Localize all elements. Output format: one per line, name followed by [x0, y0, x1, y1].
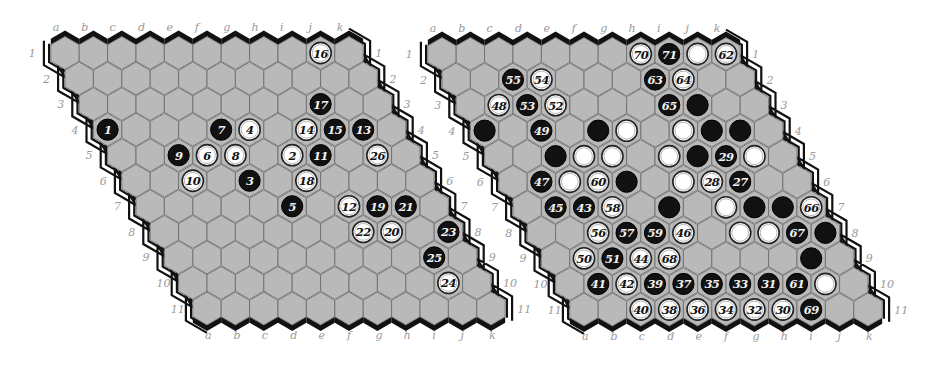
move-number: 30: [775, 303, 790, 317]
row-label-left: 8: [505, 227, 512, 240]
stone-black: 45: [545, 197, 566, 218]
move-number: 53: [520, 99, 535, 113]
stone-white: [758, 222, 779, 243]
stone-black: 35: [701, 273, 722, 294]
move-number: 58: [605, 201, 620, 215]
col-label-bottom: h: [781, 330, 788, 343]
stone-black: [616, 171, 637, 192]
col-label-bottom: k: [866, 330, 873, 343]
stone-black: [772, 197, 793, 218]
stone-white: [573, 146, 594, 167]
row-label-right: 5: [809, 150, 816, 163]
move-number: 70: [633, 48, 648, 62]
stone-black: 37: [673, 273, 694, 294]
stone-black: [659, 197, 680, 218]
move-number: 71: [662, 48, 677, 62]
stone-black: 43: [573, 197, 594, 218]
stone-white: 46: [673, 222, 694, 243]
stone-white: 66: [801, 197, 822, 218]
col-label-bottom: j: [835, 330, 842, 343]
row-label-right: 8: [852, 227, 859, 240]
row-label-right: 7: [837, 201, 844, 214]
row-label-right: 9: [866, 252, 873, 265]
move-number: 40: [633, 303, 648, 317]
move-number: 33: [733, 277, 748, 291]
move-number: 56: [591, 226, 606, 240]
stone-black: [730, 120, 751, 141]
stone-white: 30: [772, 299, 793, 320]
stone-black: 71: [659, 43, 680, 64]
stone-white: 32: [744, 299, 765, 320]
move-number: 64: [676, 73, 691, 87]
move-number: 37: [676, 277, 691, 291]
col-label-top: d: [515, 22, 522, 35]
row-label-right: 11: [894, 304, 908, 317]
row-label-left: 4: [447, 125, 455, 138]
hex-diagrams: aabbccddeeffgghhiijjkk112233445566778899…: [0, 0, 943, 365]
stone-black: 63: [644, 69, 665, 90]
stone-black: 69: [801, 299, 822, 320]
row-label-left: 10: [534, 278, 548, 291]
row-label-left: 5: [463, 150, 470, 163]
row-label-left: 9: [519, 252, 526, 265]
move-number: 35: [704, 277, 719, 291]
stone-black: 61: [786, 273, 807, 294]
stone-black: [701, 120, 722, 141]
stone-black: 59: [644, 222, 665, 243]
stone-black: [687, 146, 708, 167]
col-label-top: a: [430, 22, 437, 35]
col-label-top: h: [629, 22, 636, 35]
move-number: 57: [619, 226, 634, 240]
stone-black: [744, 197, 765, 218]
col-label-top: e: [543, 22, 550, 35]
move-number: 60: [591, 175, 606, 189]
col-label-bottom: g: [752, 330, 759, 343]
move-number: 46: [676, 226, 691, 240]
stone-black: 41: [588, 273, 609, 294]
col-label-bottom: a: [582, 330, 589, 343]
stone-white: 64: [673, 69, 694, 90]
stone-white: 62: [715, 43, 736, 64]
col-label-bottom: i: [809, 330, 813, 343]
col-label-top: b: [458, 22, 465, 35]
row-label-left: 11: [548, 304, 562, 317]
stone-white: [673, 171, 694, 192]
stone-white: 36: [687, 299, 708, 320]
stone-black: 33: [730, 273, 751, 294]
row-label-left: 2: [419, 74, 427, 87]
stone-white: [687, 43, 708, 64]
move-number: 55: [506, 73, 521, 87]
col-label-top: c: [487, 22, 493, 35]
row-label-right: 6: [823, 176, 830, 189]
move-number: 39: [648, 277, 663, 291]
col-label-top: g: [600, 22, 607, 35]
stone-white: [744, 146, 765, 167]
stone-white: 50: [573, 248, 594, 269]
move-number: 32: [747, 303, 762, 317]
move-number: 45: [548, 201, 563, 215]
stone-white: [616, 120, 637, 141]
stone-black: 51: [602, 248, 623, 269]
move-number: 51: [605, 252, 620, 266]
stone-white: 40: [630, 299, 651, 320]
stone-black: 55: [502, 69, 523, 90]
stone-black: 39: [644, 273, 665, 294]
stone-black: [474, 120, 495, 141]
row-label-left: 1: [406, 48, 413, 61]
stone-black: 29: [715, 146, 736, 167]
col-label-bottom: f: [723, 330, 730, 343]
move-number: 31: [761, 277, 776, 291]
stone-white: [730, 222, 751, 243]
move-number: 41: [591, 277, 606, 291]
stone-white: 52: [545, 95, 566, 116]
stone-black: [815, 222, 836, 243]
col-label-bottom: b: [610, 330, 617, 343]
stone-black: 65: [659, 95, 680, 116]
row-label-left: 7: [491, 201, 498, 214]
stone-black: [801, 248, 822, 269]
stone-white: 58: [602, 197, 623, 218]
stone-black: 27: [730, 171, 751, 192]
row-label-right: 2: [765, 74, 773, 87]
stone-white: 56: [588, 222, 609, 243]
move-number: 68: [662, 252, 677, 266]
